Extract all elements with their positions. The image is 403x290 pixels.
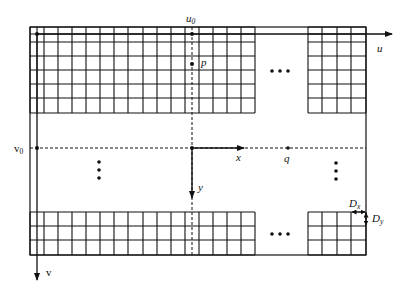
outer-frame	[30, 27, 366, 255]
ellipsis-horizontal-bottom	[270, 232, 290, 236]
u0-label: u0	[186, 12, 196, 26]
v0-dot	[35, 146, 39, 150]
point-p-dot	[190, 62, 194, 66]
x-axis-label: x	[235, 151, 241, 163]
dy-label: Dy	[371, 212, 384, 226]
point-p-label: p	[200, 56, 207, 68]
ellipsis-vertical-left	[97, 160, 101, 180]
ellipsis-vertical-right	[334, 161, 338, 181]
grid-top-right	[308, 27, 366, 113]
y-axis-label: y	[197, 181, 203, 193]
point-q-label: q	[284, 152, 290, 164]
u0-dot	[190, 32, 194, 36]
grid-bottom-left	[30, 212, 255, 255]
u-axis-label: u	[377, 42, 383, 54]
tiling-diagram: u0 v0 u v x y p q Dx Dy	[0, 0, 403, 290]
ellipsis-horizontal-top	[270, 69, 290, 73]
dx-label: Dx	[348, 197, 361, 211]
v0-label: v0	[14, 142, 24, 156]
grid-bottom-right	[308, 212, 366, 255]
v-axis-label: v	[46, 266, 52, 278]
point-q-dot	[286, 146, 290, 150]
grid-top-left	[30, 27, 255, 113]
